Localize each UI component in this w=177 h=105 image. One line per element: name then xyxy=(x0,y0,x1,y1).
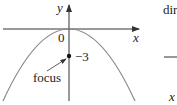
origin-label: 0 xyxy=(58,30,65,45)
directrix-label-partial: dir xyxy=(163,2,177,17)
focus-label: focus xyxy=(33,70,61,85)
focus-value-label: −3 xyxy=(75,49,89,64)
x-axis-label: x xyxy=(132,30,139,45)
focus-point xyxy=(67,54,71,58)
y-axis-label: y xyxy=(55,0,63,15)
parabola-diagram: y x 0 −3 focus dir x xyxy=(0,0,177,105)
right-x-label: x xyxy=(168,89,175,104)
